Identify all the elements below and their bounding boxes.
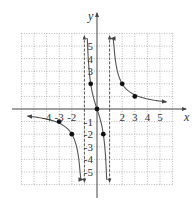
y-tick-label: -5: [84, 166, 94, 178]
data-point: [120, 81, 125, 86]
y-tick-label: -3: [84, 141, 94, 153]
data-point: [69, 132, 74, 137]
x-tick-label: -3: [55, 111, 65, 123]
y-tick-label: 5: [88, 40, 94, 52]
curve-right-branch: [111, 38, 166, 101]
data-point: [101, 132, 106, 137]
rational-function-graph: -4-3-22345543-1-2-3-4-5xy: [0, 0, 196, 208]
curve-left-branch: [28, 116, 83, 179]
x-axis-label: x: [183, 110, 190, 124]
data-point: [95, 107, 100, 112]
y-axis-label: y: [87, 9, 94, 23]
data-point: [88, 81, 93, 86]
y-tick-label: -2: [84, 128, 93, 140]
x-tick-label: 4: [145, 111, 151, 123]
y-tick-label: -4: [84, 153, 94, 165]
x-tick-label: 5: [157, 111, 163, 123]
x-tick-label: 3: [132, 111, 138, 123]
x-tick-label: 2: [119, 111, 125, 123]
x-tick-label: -2: [67, 111, 76, 123]
data-point: [132, 94, 137, 99]
x-tick-label: -4: [42, 111, 52, 123]
y-tick-label: 4: [88, 53, 94, 65]
y-tick-label: 3: [88, 65, 94, 77]
axes: [12, 13, 186, 198]
y-tick-label: -1: [84, 116, 93, 128]
tick-labels: -4-3-22345543-1-2-3-4-5xy: [42, 9, 190, 178]
